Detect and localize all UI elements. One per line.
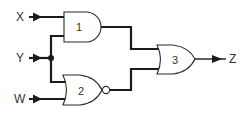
output-label-z: Z bbox=[229, 52, 236, 66]
arrow-icon bbox=[212, 55, 222, 63]
gate-3-label: 3 bbox=[172, 54, 178, 66]
input-label-x: X bbox=[16, 10, 24, 24]
logic-circuit-diagram: X Y W 1 2 3 Z bbox=[0, 0, 249, 113]
arrow-icon bbox=[33, 13, 42, 22]
wire-y bbox=[29, 36, 67, 82]
gate-1-label: 1 bbox=[76, 21, 82, 33]
gate-1-and: 1 bbox=[64, 12, 101, 42]
wire-gate1-to-gate3 bbox=[101, 27, 160, 49]
inverter-bubble bbox=[102, 86, 109, 93]
wire-x bbox=[29, 13, 64, 22]
gate-2-label: 2 bbox=[78, 85, 84, 97]
wire-z bbox=[195, 55, 226, 63]
input-label-w: W bbox=[14, 92, 26, 106]
wire-gate2-to-gate3 bbox=[110, 69, 160, 90]
gate-3-or: 3 bbox=[157, 45, 195, 74]
wire-w bbox=[29, 95, 67, 104]
junction-dot bbox=[48, 55, 54, 61]
arrow-icon bbox=[33, 95, 42, 104]
gate-2-nor: 2 bbox=[63, 75, 110, 105]
arrow-icon bbox=[33, 54, 42, 63]
input-label-y: Y bbox=[16, 51, 24, 65]
